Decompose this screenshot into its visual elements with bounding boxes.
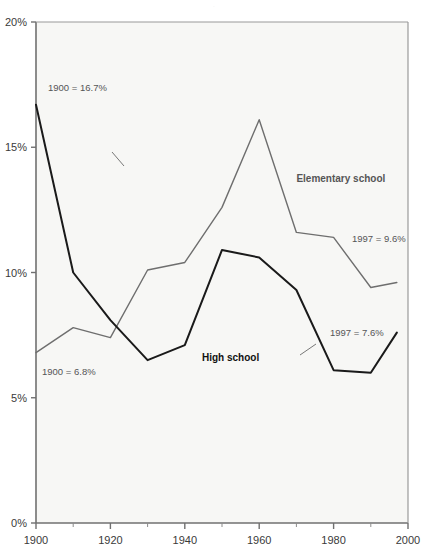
y-tick-label-5%: 5% <box>11 392 27 404</box>
y-tick-label-15%: 15% <box>5 141 27 153</box>
annotation-high-end: 1997 = 7.6% <box>330 327 384 338</box>
plot-area-background <box>36 22 408 523</box>
series-label-elementary-school: Elementary school <box>296 173 385 184</box>
annotation-elem-start: 1900 = 6.8% <box>42 366 96 377</box>
y-tick-label-0%: 0% <box>11 517 27 529</box>
annotation-high-start: 1900 = 16.7% <box>48 82 107 93</box>
x-tick-label-1980: 1980 <box>321 534 345 546</box>
x-tick-label-1900: 1900 <box>24 534 48 546</box>
series-label-high-school: High school <box>202 352 259 363</box>
y-tick-label-10%: 10% <box>5 267 27 279</box>
annotation-elem-end: 1997 = 9.6% <box>352 233 406 244</box>
x-tick-label-2000: 2000 <box>396 534 420 546</box>
x-tick-label-1920: 1920 <box>98 534 122 546</box>
chart-container: . 0%5%10%15%20%190019201940196019802000 … <box>0 0 428 558</box>
plot-background <box>36 22 408 523</box>
line-chart-svg: 0%5%10%15%20%190019201940196019802000 19… <box>0 0 428 558</box>
y-tick-label-20%: 20% <box>5 16 27 28</box>
x-tick-label-1960: 1960 <box>247 534 271 546</box>
x-tick-label-1940: 1940 <box>173 534 197 546</box>
